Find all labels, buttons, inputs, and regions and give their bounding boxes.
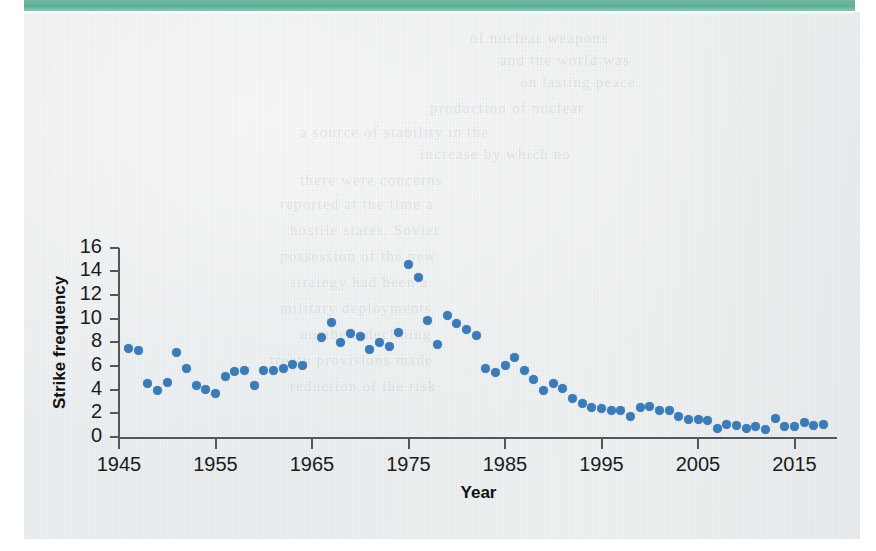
x-tick-label: 1965 — [272, 453, 352, 476]
data-point — [761, 425, 770, 434]
y-tick-label: 0 — [62, 424, 102, 447]
data-point — [568, 394, 577, 403]
y-tick — [110, 436, 119, 438]
y-tick — [110, 294, 119, 296]
data-point — [684, 415, 693, 424]
data-point — [394, 328, 403, 337]
data-point — [703, 416, 712, 425]
data-point — [597, 404, 606, 413]
data-point — [279, 364, 288, 373]
y-tick — [110, 318, 119, 320]
y-tick — [110, 365, 119, 367]
data-point — [549, 379, 558, 388]
data-point — [163, 378, 172, 387]
data-point — [250, 381, 259, 390]
data-point — [809, 421, 818, 430]
data-point — [288, 360, 297, 369]
data-point — [481, 364, 490, 373]
data-point — [298, 361, 307, 370]
data-point — [443, 311, 452, 320]
data-point — [529, 375, 538, 384]
data-point — [404, 260, 413, 269]
data-point — [201, 385, 210, 394]
x-tick-label: 1985 — [465, 453, 545, 476]
data-point — [143, 379, 152, 388]
data-point — [346, 329, 355, 338]
data-point — [192, 381, 201, 390]
x-tick — [408, 439, 410, 449]
data-point — [433, 340, 442, 349]
data-point — [356, 332, 365, 341]
x-tick-label: 1995 — [562, 453, 642, 476]
x-axis-line — [118, 437, 837, 439]
data-point — [520, 366, 529, 375]
x-tick — [311, 439, 313, 449]
data-point — [472, 331, 481, 340]
data-point — [607, 406, 616, 415]
data-point — [259, 366, 268, 375]
scanned-page: of nuclear weaponsand the world wason la… — [0, 0, 876, 551]
data-point — [317, 333, 326, 342]
data-point — [501, 361, 510, 370]
y-tick — [110, 270, 119, 272]
y-tick-label: 16 — [62, 235, 102, 258]
data-point — [385, 342, 394, 351]
x-tick — [215, 439, 217, 449]
x-tick — [118, 439, 120, 449]
strike-frequency-scatter-chart: 0246810121416 19451955196519751985199520… — [0, 0, 876, 551]
x-axis-title: Year — [379, 483, 579, 503]
x-tick — [697, 439, 699, 449]
data-point — [423, 316, 432, 325]
data-point — [636, 403, 645, 412]
data-point — [742, 424, 751, 433]
data-point — [578, 399, 587, 408]
data-point — [414, 273, 423, 282]
data-point — [172, 348, 181, 357]
data-point — [790, 422, 799, 431]
x-tick-label: 2015 — [755, 453, 835, 476]
data-point — [365, 345, 374, 354]
data-point — [269, 366, 278, 375]
data-point — [694, 415, 703, 424]
data-point — [327, 318, 336, 327]
data-point — [134, 346, 143, 355]
data-point — [819, 420, 828, 429]
x-tick-label: 1955 — [176, 453, 256, 476]
data-point — [462, 325, 471, 334]
x-tick-label: 2005 — [658, 453, 738, 476]
data-point — [124, 344, 133, 353]
x-tick — [504, 439, 506, 449]
data-point — [230, 367, 239, 376]
data-point — [539, 386, 548, 395]
y-tick — [110, 389, 119, 391]
data-point — [713, 424, 722, 433]
data-point — [665, 406, 674, 415]
data-point — [626, 412, 635, 421]
data-point — [375, 338, 384, 347]
data-point — [240, 366, 249, 375]
x-tick-label: 1945 — [79, 453, 159, 476]
data-point — [510, 353, 519, 362]
data-point — [751, 422, 760, 431]
y-axis-title: Strike frequency — [50, 276, 70, 409]
data-point — [211, 389, 220, 398]
data-point — [182, 364, 191, 373]
data-point — [336, 338, 345, 347]
data-point — [645, 402, 654, 411]
data-point — [221, 372, 230, 381]
x-tick — [794, 439, 796, 449]
data-point — [780, 422, 789, 431]
y-tick — [110, 341, 119, 343]
data-point — [616, 406, 625, 415]
data-point — [674, 412, 683, 421]
y-tick — [110, 247, 119, 249]
x-tick-label: 1975 — [369, 453, 449, 476]
data-point — [655, 406, 664, 415]
data-point — [491, 368, 500, 377]
data-point — [771, 414, 780, 423]
x-tick — [601, 439, 603, 449]
data-point — [587, 403, 596, 412]
data-point — [800, 418, 809, 427]
y-tick — [110, 412, 119, 414]
data-point — [153, 386, 162, 395]
